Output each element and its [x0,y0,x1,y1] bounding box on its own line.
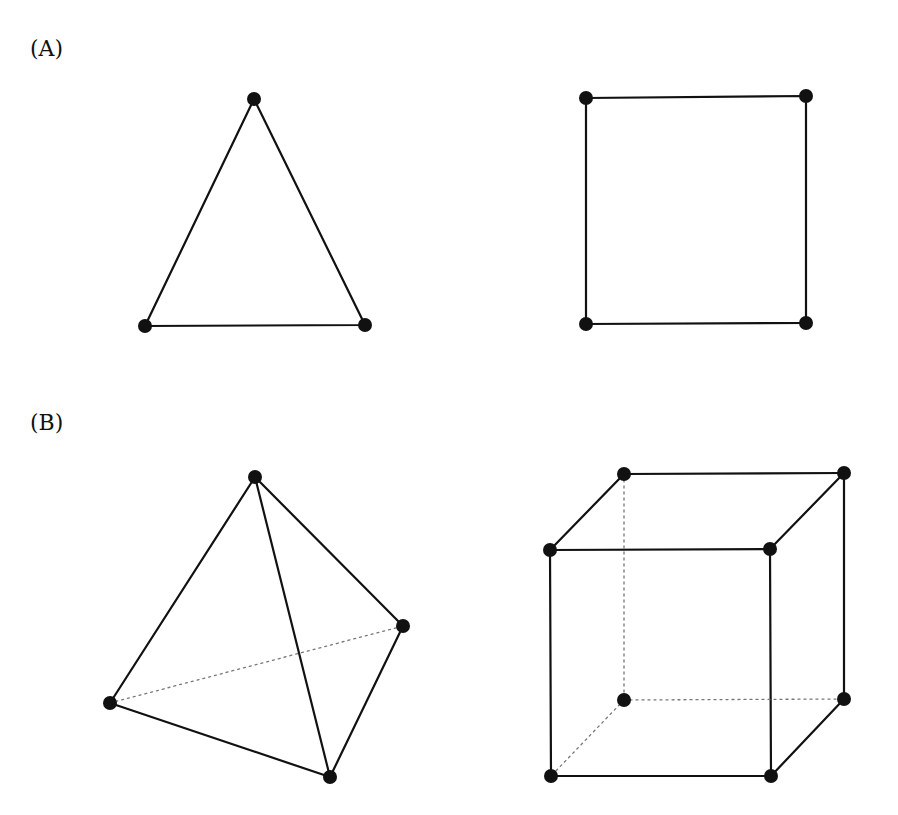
square [586,96,806,324]
triangle [145,99,365,326]
polytope-diagram [0,0,898,815]
cube [550,473,844,776]
hidden-edge [110,626,403,703]
tetrahedron [110,477,403,777]
vertices [103,89,851,784]
